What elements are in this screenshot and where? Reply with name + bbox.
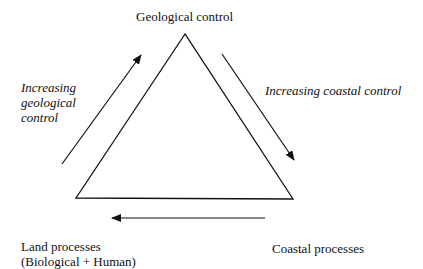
left-arrow-label-line: Increasing	[21, 80, 76, 95]
triangle-shape	[76, 34, 293, 199]
diagram-graphics	[0, 0, 423, 269]
left-arrow-label-line: control	[21, 110, 76, 125]
left-arrow-label-line: geological	[21, 95, 76, 110]
bottom-left-vertex-label: Land processes (Biological + Human)	[21, 239, 136, 269]
right-arrow-label: Increasing coastal control	[265, 83, 401, 98]
bottom-right-vertex-label: Coastal processes	[272, 241, 364, 256]
triangle-diagram: Geological control Increasing geological…	[0, 0, 423, 269]
bottom-left-label-line: Land processes	[21, 239, 136, 254]
top-vertex-label: Geological control	[136, 9, 233, 24]
left-arrow-label: Increasing geological control	[21, 80, 76, 125]
bottom-left-label-line: (Biological + Human)	[21, 254, 136, 269]
